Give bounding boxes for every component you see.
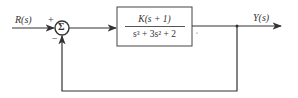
minus-sign: −	[52, 33, 58, 44]
fraction-bar	[125, 26, 185, 27]
transfer-function: K(s + 1) s³ + 3s² + 2	[117, 7, 192, 46]
plus-sign: +	[48, 14, 54, 25]
input-label: R(s)	[15, 14, 32, 25]
tf-denominator: s³ + 3s² + 2	[133, 28, 176, 40]
tf-numerator: K(s + 1)	[138, 13, 170, 25]
output-label: Y(s)	[253, 12, 269, 23]
sigma-symbol: Σ	[58, 21, 65, 32]
decorative-dot	[196, 32, 197, 33]
